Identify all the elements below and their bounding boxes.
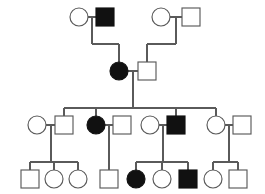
individual-I-2-male-affected [96, 8, 114, 26]
pedigree-chart [0, 0, 265, 194]
individual-III-2-male-unaffected [55, 116, 73, 134]
individual-IV-6-female-unaffected [153, 170, 171, 188]
individual-IV-5-female-affected [127, 170, 145, 188]
individual-I-1-female-unaffected [70, 8, 88, 26]
individual-I-3-female-unaffected [152, 8, 170, 26]
individual-II-2-male-unaffected [138, 62, 156, 80]
individual-III-4-male-unaffected [113, 116, 131, 134]
individual-IV-8-female-unaffected [204, 170, 222, 188]
individual-IV-2-female-unaffected [45, 170, 63, 188]
individual-IV-3-female-unaffected [69, 170, 87, 188]
individual-I-4-male-unaffected [182, 8, 200, 26]
individual-III-7-female-unaffected [207, 116, 225, 134]
individual-IV-1-male-unaffected [21, 170, 39, 188]
pedigree-canvas [0, 0, 265, 194]
individual-IV-7-male-affected [179, 170, 197, 188]
individual-III-5-female-unaffected [141, 116, 159, 134]
individual-III-3-female-affected [87, 116, 105, 134]
individual-III-6-male-affected [167, 116, 185, 134]
individual-IV-9-male-unaffected [229, 170, 247, 188]
individual-II-1-female-affected [110, 62, 128, 80]
individual-III-8-male-unaffected [233, 116, 251, 134]
individual-III-1-female-unaffected [28, 116, 46, 134]
individual-IV-4-male-unaffected [100, 170, 118, 188]
